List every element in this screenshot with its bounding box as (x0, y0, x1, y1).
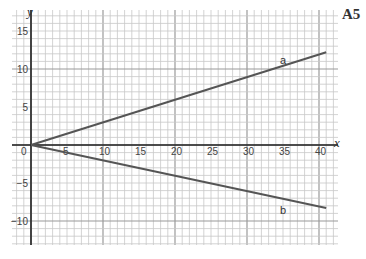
y-tick-label: 15 (17, 26, 29, 37)
x-tick-label: 25 (207, 146, 219, 157)
y-tick-label: −10 (11, 216, 28, 227)
y-tick-label: 10 (17, 64, 29, 75)
x-tick-label: 10 (99, 146, 111, 157)
y-tick-label: 5 (22, 102, 28, 113)
x-axis-label: x (333, 135, 340, 150)
line-label-b: b (280, 204, 286, 216)
x-tick-label: 30 (243, 146, 255, 157)
x-tick-label: 15 (135, 146, 147, 157)
x-tick-label: 35 (279, 146, 291, 157)
coordinate-grid-chart: xy0510152025303540−10−551015ab (0, 0, 366, 259)
x-tick-label: 40 (315, 146, 327, 157)
exercise-label: A5 (342, 6, 360, 23)
line-a (31, 52, 326, 145)
y-tick-label: −5 (17, 178, 29, 189)
x-tick-label: 0 (21, 146, 27, 157)
x-tick-label: 20 (171, 146, 183, 157)
line-label-a: a (280, 54, 287, 66)
y-axis-label: y (25, 4, 33, 19)
